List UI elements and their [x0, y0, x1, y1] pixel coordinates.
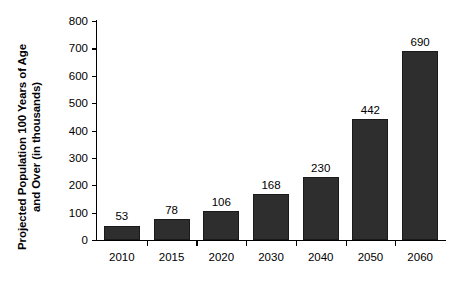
bar-chart: Projected Population 100 Years of Age an… [0, 0, 471, 281]
y-tick-label: 700 [69, 42, 88, 54]
x-tick-label: 2020 [208, 251, 234, 263]
x-tick-mark [395, 240, 396, 246]
bar [402, 51, 438, 240]
y-tick-label: 0 [82, 234, 88, 246]
bar [253, 194, 289, 240]
y-tick-label: 400 [69, 125, 88, 137]
x-tick-label: 2015 [159, 251, 185, 263]
y-axis-title: Projected Population 100 Years of Age an… [0, 27, 58, 267]
x-tick-label: 2030 [258, 251, 284, 263]
bar [352, 119, 388, 240]
bars-layer: 5378106168230442690 [97, 21, 445, 240]
y-tick-label: 800 [69, 15, 88, 27]
plot-area: 0100200300400500600700800 20102015202020… [97, 21, 445, 240]
bar-value-label: 78 [165, 204, 178, 216]
bar-value-label: 690 [411, 36, 430, 48]
x-tick-label: 2010 [109, 251, 135, 263]
bar-value-label: 230 [311, 162, 330, 174]
bar [104, 226, 140, 241]
x-tick-label: 2060 [407, 251, 433, 263]
y-tick-label: 500 [69, 97, 88, 109]
x-tick-label: 2050 [358, 251, 384, 263]
x-tick-mark [346, 240, 347, 246]
x-tick-label: 2040 [308, 251, 334, 263]
y-tick-label: 600 [69, 70, 88, 82]
bar-value-label: 442 [361, 104, 380, 116]
x-tick-mark [246, 240, 247, 246]
bar [154, 219, 190, 240]
bar-value-label: 53 [115, 210, 128, 222]
x-tick-mark [147, 240, 148, 246]
y-tick-label: 300 [69, 152, 88, 164]
y-tick-mark [92, 240, 97, 241]
y-axis-title-line-1: Projected Population 100 Years of Age [15, 44, 30, 250]
x-tick-mark [296, 240, 297, 246]
bar [203, 211, 239, 240]
bar-value-label: 106 [212, 196, 231, 208]
y-axis-title-line-2: and Over (in thousands) [29, 44, 44, 250]
y-tick-label: 200 [69, 179, 88, 191]
x-tick-mark [196, 240, 197, 246]
bar-value-label: 168 [261, 179, 280, 191]
bar [303, 177, 339, 240]
y-tick-label: 100 [69, 207, 88, 219]
